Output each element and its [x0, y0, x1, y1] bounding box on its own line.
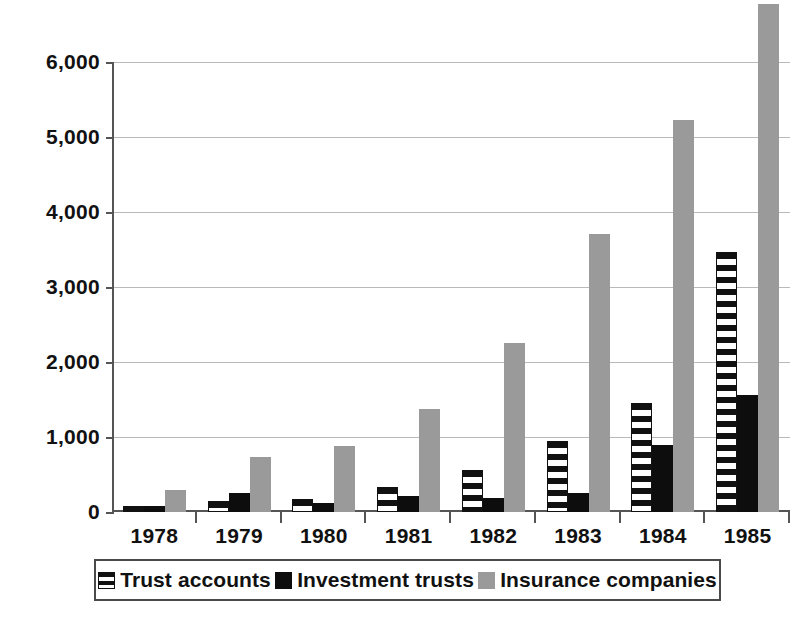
x-axis-label-1978: 1978: [112, 524, 197, 552]
x-axis-labels: 19781979198019811982198319841985: [112, 524, 790, 552]
y-axis-tick-label: 3,000: [8, 275, 100, 299]
y-axis-tick-label: 1,000: [8, 425, 100, 449]
bar-group-1984: [621, 62, 706, 512]
bar-1983-series-0: [547, 441, 568, 512]
x-axis-ticks: [112, 512, 790, 524]
legend-label: Investment trusts: [297, 568, 474, 592]
x-axis-tick-1982: [451, 512, 536, 524]
bar-1980-series-2: [334, 446, 355, 512]
bar-1979-series-0: [208, 501, 229, 512]
y-axis-tick-label: 0: [8, 500, 100, 524]
bar-1980-series-1: [313, 503, 334, 512]
bar-1981-series-0: [377, 487, 398, 512]
bar-1980-series-0: [292, 499, 313, 512]
x-axis-tick-1978: [112, 512, 197, 524]
x-axis-label-1980: 1980: [282, 524, 367, 552]
legend-item-1[interactable]: Investment trusts: [275, 568, 474, 592]
y-axis-tick-label: 4,000: [8, 200, 100, 224]
bar-1979-series-1: [229, 493, 250, 512]
bar-group-1985: [705, 62, 790, 512]
x-axis-tick-1984: [621, 512, 706, 524]
bar-1981-series-1: [398, 496, 419, 512]
x-axis-label-1979: 1979: [197, 524, 282, 552]
x-axis-label-1984: 1984: [621, 524, 706, 552]
legend-item-2[interactable]: Insurance companies: [478, 568, 717, 592]
y-axis-tick-label: 6,000: [8, 50, 100, 74]
bar-group-1982: [451, 62, 536, 512]
striped-swatch-icon: [98, 572, 115, 589]
bar-1984-series-2: [673, 120, 694, 512]
x-axis-label-1983: 1983: [536, 524, 621, 552]
bar-group-1979: [197, 62, 282, 512]
x-axis-label-1985: 1985: [705, 524, 790, 552]
x-axis-tick-1985: [705, 512, 790, 524]
x-axis-label-1981: 1981: [366, 524, 451, 552]
x-axis-tick-1979: [197, 512, 282, 524]
black-swatch-icon: [275, 572, 292, 589]
bar-1985-series-0: [716, 252, 737, 512]
y-axis-tick-label: 2,000: [8, 350, 100, 374]
x-axis-tick-1983: [536, 512, 621, 524]
bar-1983-series-1: [568, 493, 589, 512]
bar-group-1983: [536, 62, 621, 512]
gray-swatch-icon: [478, 572, 495, 589]
legend-label: Trust accounts: [120, 568, 271, 592]
x-axis-tick-1981: [366, 512, 451, 524]
bar-group-1981: [366, 62, 451, 512]
bar-1985-series-1: [737, 395, 758, 512]
bar-chart: 01,0002,0003,0004,0005,0006,000 19781979…: [0, 0, 808, 620]
bar-group-1978: [112, 62, 197, 512]
y-axis-tick-label: 5,000: [8, 125, 100, 149]
bar-1982-series-0: [462, 470, 483, 512]
chart-legend: Trust accountsInvestment trustsInsurance…: [94, 559, 721, 601]
legend-label: Insurance companies: [500, 568, 717, 592]
bar-groups: [112, 62, 790, 512]
bar-1983-series-2: [589, 234, 610, 512]
bar-1978-series-2: [165, 490, 186, 513]
x-axis-label-1982: 1982: [451, 524, 536, 552]
x-axis-tick-1980: [282, 512, 367, 524]
bar-group-1980: [282, 62, 367, 512]
bar-1984-series-1: [652, 445, 673, 512]
bar-1982-series-1: [483, 498, 504, 512]
y-axis-labels: 01,0002,0003,0004,0005,0006,000: [0, 0, 100, 620]
bar-1985-series-2: [758, 4, 779, 512]
bar-1982-series-2: [504, 343, 525, 513]
legend-item-0[interactable]: Trust accounts: [98, 568, 271, 592]
bar-1979-series-2: [250, 457, 271, 512]
bar-1984-series-0: [631, 403, 652, 512]
bar-1981-series-2: [419, 409, 440, 512]
